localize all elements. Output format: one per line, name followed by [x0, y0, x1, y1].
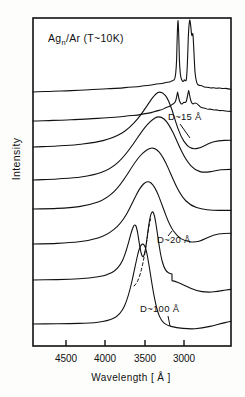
- x-tick-label-4000: 4000: [94, 353, 117, 364]
- plot-title-matrix: /Ar (T~10K): [66, 32, 124, 44]
- annotation-d20: D~20 Å: [157, 234, 191, 245]
- x-tick-label-3000: 3000: [173, 353, 196, 364]
- x-tick-label-3500: 3500: [134, 353, 157, 364]
- x-axis-label: Wavelength [ Å ]: [91, 371, 170, 383]
- x-tick-label-4500: 4500: [55, 353, 78, 364]
- plot-title-species: Ag: [48, 32, 61, 44]
- annotation-d100: D~100 Å: [140, 303, 180, 314]
- annotation-d15: D~15 Å: [168, 111, 202, 122]
- spectra-figure: 4500 4000 3500 3000 Wavelength [ Å ] Agn…: [0, 0, 245, 397]
- plot-frame: [33, 18, 231, 346]
